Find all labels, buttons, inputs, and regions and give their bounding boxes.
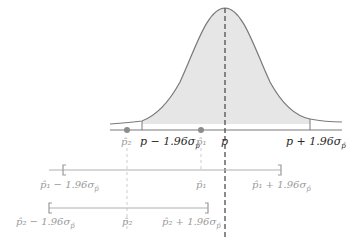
p1-hat-dot [198,127,204,133]
confidence-interval-diagram: p̂₂ p − 1.96σp̂ p̂₁ p p + 1.96σp̂ p̂₁ − … [0,0,360,245]
interval2-left-label: p̂₂ − 1.96σp̂ [16,216,75,230]
confidence-interval-1 [49,165,281,175]
label-p2-hat: p̂₂ [121,136,131,147]
interval1-right-label: p̂₁ + 1.96σp̂ [252,179,311,193]
interval1-center-label: p̂₁ [196,179,206,190]
label-p-plus: p + 1.96σp̂ [286,135,346,150]
shaded-central-area [142,8,310,124]
label-p1-hat: p̂₁ [196,136,206,147]
label-p-minus: p − 1.96σp̂ [140,135,200,150]
interval1-left-label: p̂₁ − 1.96σp̂ [40,179,99,193]
interval2-right-label: p̂₂ + 1.96σp̂ [162,216,221,230]
label-p: p [221,135,228,148]
confidence-interval-2 [49,203,208,213]
interval2-center-label: p̂₂ [122,216,132,227]
p2-hat-dot [124,127,130,133]
